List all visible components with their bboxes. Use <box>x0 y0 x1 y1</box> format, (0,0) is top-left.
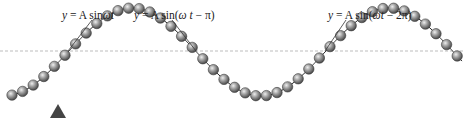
bead <box>314 53 324 63</box>
bead <box>60 50 70 60</box>
bead <box>39 71 49 81</box>
bead <box>198 54 208 64</box>
bead <box>441 39 451 49</box>
bead <box>251 90 261 100</box>
bead <box>304 64 314 74</box>
label-phase-2pi: y = A sin(ωt − 2π) <box>328 10 411 22</box>
bead <box>240 88 250 98</box>
bead <box>261 90 271 100</box>
bead <box>166 21 176 31</box>
bead <box>272 87 282 97</box>
bead <box>293 74 303 84</box>
leader-line <box>172 20 196 51</box>
label-eq: = A sin( <box>333 9 372 21</box>
bead <box>335 30 345 40</box>
bead <box>219 74 229 84</box>
triangle-marker-icon <box>50 104 66 118</box>
bead <box>70 39 80 49</box>
bead <box>49 61 59 71</box>
label-phase-pi: y = A sin(ω t − π) <box>134 10 215 22</box>
label-arg: ωt <box>373 9 384 21</box>
label-eq: = A sin( <box>139 9 178 21</box>
label-eq: = A sin <box>67 9 103 21</box>
bead <box>208 64 218 74</box>
label-suffix: − π) <box>193 9 215 21</box>
bead <box>17 86 27 96</box>
bead <box>81 28 91 38</box>
bead <box>431 29 441 39</box>
bead <box>452 51 462 61</box>
bead <box>123 3 133 13</box>
label-arg: ωt <box>103 9 114 21</box>
label-phase-0: y = A sinωt <box>62 10 114 22</box>
bead <box>346 21 356 31</box>
bead <box>113 5 123 15</box>
bead <box>282 82 292 92</box>
label-leaders <box>68 20 346 51</box>
bead <box>420 19 430 29</box>
wave-diagram: y = A sinωt y = A sin(ω t − π) y = A sin… <box>0 0 465 121</box>
bead <box>28 80 38 90</box>
label-arg: ω t <box>179 9 193 21</box>
label-suffix: − 2π) <box>384 9 412 21</box>
bead <box>229 82 239 92</box>
bead <box>7 90 17 100</box>
